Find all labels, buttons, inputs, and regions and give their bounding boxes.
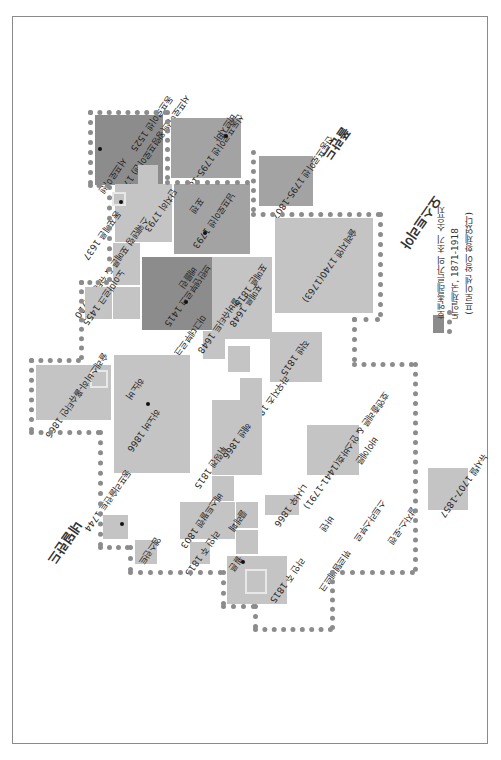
- empire-border: [413, 362, 418, 572]
- empire-border: [88, 110, 93, 185]
- empire-border: [352, 362, 414, 367]
- city-dot: [146, 402, 150, 406]
- empire-border: [88, 110, 168, 115]
- territory-danzig-inner: [112, 192, 126, 206]
- city-dot: [120, 522, 124, 526]
- empire-border: [251, 150, 256, 212]
- empire-border: [330, 570, 335, 630]
- city-dot: [241, 560, 245, 564]
- territory-swedish-pomerania: [113, 287, 140, 319]
- empire-border: [29, 358, 34, 432]
- empire-border: [79, 280, 84, 360]
- territory-rhine-inner: [245, 569, 267, 594]
- empire-border: [79, 280, 109, 285]
- empire-border: [253, 627, 333, 632]
- legend-note: (프로이센 왕이 황제였다): [462, 212, 475, 315]
- territory-east-frisia: [103, 515, 128, 539]
- city-dot: [119, 200, 123, 204]
- territory-magdeburg: [228, 346, 250, 372]
- legend-early-possessions: 호엔촐레른가의 초기 소유지: [434, 205, 447, 319]
- empire-border: [352, 317, 357, 362]
- empire-border: [98, 430, 103, 547]
- empire-border: [221, 570, 226, 606]
- city-dot: [224, 134, 228, 138]
- empire-border: [29, 358, 81, 363]
- empire-border: [165, 110, 170, 180]
- city-dot: [98, 147, 102, 151]
- empire-border: [251, 212, 381, 217]
- territory-cleves-2: [236, 530, 258, 554]
- empire-border: [29, 430, 101, 435]
- city-dot: [184, 300, 188, 304]
- city-dot: [203, 231, 207, 235]
- empire-border: [221, 604, 256, 609]
- empire-border: [88, 183, 110, 188]
- empire-border: [378, 212, 383, 317]
- empire-border: [330, 570, 415, 575]
- empire-border: [128, 570, 223, 575]
- empire-border: [107, 185, 112, 282]
- empire-border: [165, 180, 250, 185]
- legend-german-empire: 독일제국, 1871-1918: [448, 228, 461, 319]
